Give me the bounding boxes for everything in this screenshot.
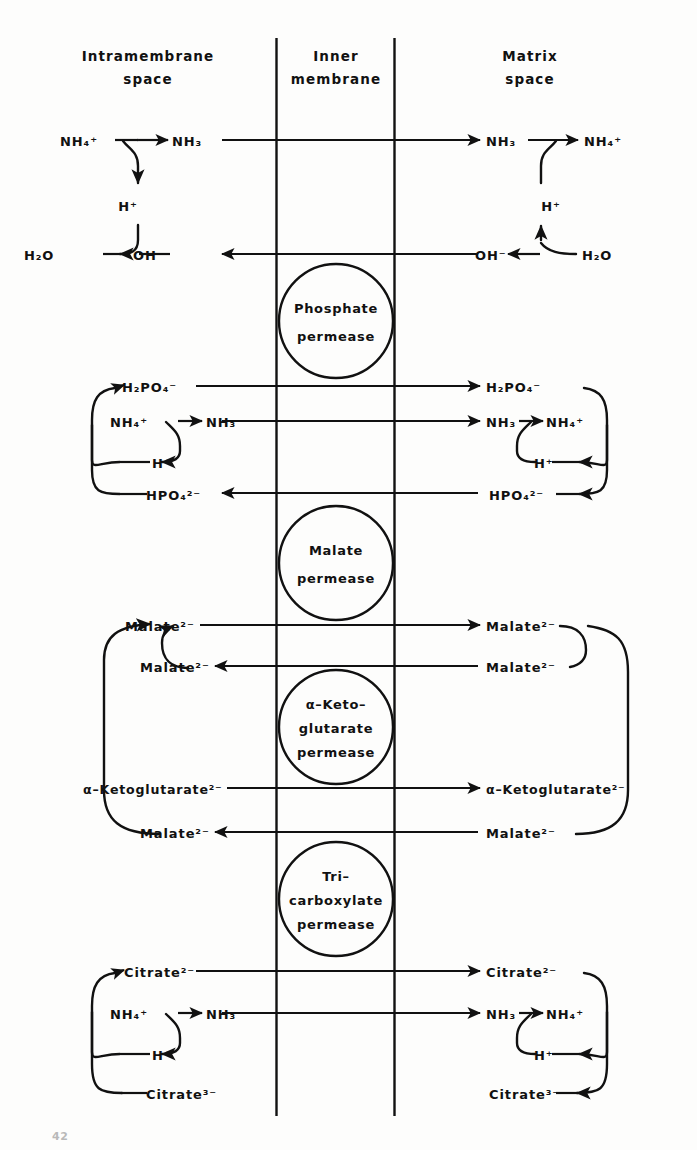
header-right-line1: Matrix (502, 48, 558, 64)
species-ammonium-top-right: NH₄⁺ (584, 134, 622, 149)
species-malate-left-top: Malate²⁻ (125, 619, 195, 634)
species-ammonium-phosphate-right: NH₄⁺ (546, 415, 584, 430)
header-mid-line2: membrane (291, 71, 381, 87)
permease-ketoglutarate-line3: permease (297, 745, 375, 760)
species-ammonia-phosphate-right: NH₃ (486, 415, 516, 430)
permease-tricarboxylate-line3: permease (297, 917, 375, 932)
header-left-line2: space (123, 71, 172, 87)
species-hydroxide-top-right: OH⁻ (475, 248, 507, 263)
species-proton-top-right: H⁺ (541, 199, 561, 214)
elbow-nh3-to-proton-citrate-right (517, 1014, 535, 1054)
permease-circle-phosphate (279, 264, 393, 378)
elbow-nh4-right-top (541, 141, 556, 183)
permease-ketoglutarate-line2: glutarate (299, 721, 374, 736)
species-proton-phosphate-left: H⁺ (152, 456, 172, 471)
species-ammonium-top-left: NH₄⁺ (60, 134, 98, 149)
species-citrate2-left: Citrate²⁻ (124, 965, 195, 980)
header-mid-line1: Inner (313, 48, 359, 64)
loop-malate-large-left (104, 624, 160, 834)
species-citrate3-right: Citrate³⁻ (489, 1087, 560, 1102)
species-citrate2-right: Citrate²⁻ (486, 965, 557, 980)
species-proton-phosphate-right: H⁺ (534, 456, 554, 471)
species-citrate3-left: Citrate³⁻ (146, 1087, 217, 1102)
species-ammonia-top-right: NH₃ (486, 134, 516, 149)
diagram-figure: Intramembrane space Inner membrane Matri… (0, 0, 697, 1150)
species-proton-top-left: H⁺ (118, 199, 138, 214)
permease-malate-line2: permease (297, 571, 375, 586)
species-ammonia-citrate-right: NH₃ (486, 1007, 516, 1022)
species-hydroxide-top-left: OH⁻ (133, 248, 165, 263)
species-malate-right-upper: Malate²⁻ (486, 660, 556, 675)
arrowhead-to-citrate2-left (115, 970, 124, 973)
species-ketoglutarate-left: α–Ketoglutarate²⁻ (83, 782, 223, 797)
species-hpo4-right: HPO₄²⁻ (489, 488, 544, 503)
species-ammonium-citrate-right: NH₄⁺ (546, 1007, 584, 1022)
permease-ketoglutarate-line1: α–Keto– (306, 697, 367, 712)
loop-malate-small-right (560, 626, 586, 667)
elbow-nh4-to-proton-left (123, 141, 138, 183)
page-footnote: 42 (52, 1130, 69, 1143)
species-malate-right-lower: Malate²⁻ (486, 826, 556, 841)
permease-tricarboxylate-line2: carboxylate (289, 893, 383, 908)
bracket-citrate3-right (577, 1012, 607, 1093)
species-malate-right-top: Malate²⁻ (486, 619, 556, 634)
species-malate-left-lower: Malate²⁻ (140, 826, 210, 841)
permease-tricarboxylate-line1: Tri– (322, 869, 350, 884)
species-ammonia-top-left: NH₃ (172, 134, 202, 149)
species-h2po4-right: H₂PO₄⁻ (486, 380, 541, 395)
species-proton-citrate-left: H⁺ (152, 1048, 172, 1063)
permease-phosphate-line2: permease (297, 329, 375, 344)
species-ammonium-citrate-left: NH₄⁺ (110, 1007, 148, 1022)
header-right-line2: space (505, 71, 554, 87)
species-ketoglutarate-right: α–Ketoglutarate²⁻ (486, 782, 626, 797)
species-proton-citrate-right: H⁺ (534, 1048, 554, 1063)
species-h2po4-left: H₂PO₄⁻ (122, 380, 177, 395)
elbow-nh3-to-proton-phosphate-right (517, 422, 535, 462)
species-malate-left-upper: Malate²⁻ (140, 660, 210, 675)
diagram-canvas: Intramembrane space Inner membrane Matri… (0, 0, 697, 1150)
species-ammonia-citrate-left: NH₃ (206, 1007, 236, 1022)
species-ammonium-phosphate-left: NH₄⁺ (110, 415, 148, 430)
bracket-hpo4-left (92, 425, 120, 494)
species-water-top-left: H₂O (24, 248, 54, 263)
species-water-top-right: H₂O (582, 248, 612, 263)
permease-circle-malate (279, 506, 393, 620)
permease-phosphate-line1: Phosphate (294, 301, 378, 316)
bracket-hpo4-right (579, 425, 607, 494)
header-left-line1: Intramembrane (82, 48, 215, 64)
permease-malate-line1: Malate (309, 543, 363, 558)
bracket-citrate3-left (92, 1012, 122, 1093)
elbow-water-to-proton-right (541, 243, 576, 254)
species-hpo4-left: HPO₄²⁻ (146, 488, 201, 503)
species-ammonia-phosphate-left: NH₃ (206, 415, 236, 430)
